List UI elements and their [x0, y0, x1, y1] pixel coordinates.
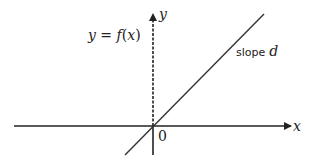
- slope-label: sloped: [236, 43, 278, 59]
- function-label: y = f(x): [87, 27, 141, 43]
- function-line: [125, 14, 264, 155]
- x-axis-label: x: [293, 118, 301, 134]
- origin-label: 0: [158, 128, 167, 144]
- y-axis-label: y: [158, 6, 168, 22]
- diagram-canvas: y x 0 y = f(x) sloped: [0, 0, 314, 163]
